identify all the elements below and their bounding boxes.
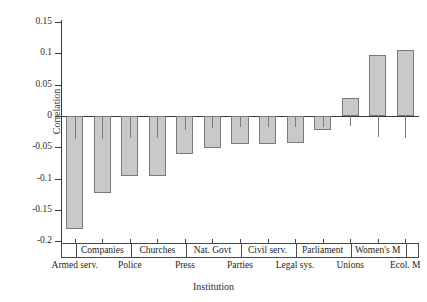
category-label: Parties: [215, 259, 266, 272]
error-whisker: [102, 117, 103, 139]
y-tick: [55, 22, 61, 23]
category-label: Civil serv.: [242, 244, 293, 257]
y-tick-label: 0: [0, 111, 52, 120]
y-axis-title: Correlation: [51, 52, 62, 172]
error-whisker: [240, 117, 241, 127]
error-whisker: [378, 116, 379, 137]
x-axis-title: Institution: [0, 281, 427, 292]
category-label: Unions: [325, 259, 376, 272]
category-label: Nat. Govt: [187, 244, 238, 257]
error-whisker: [405, 116, 406, 138]
chart-figure: 0.150.10.050-0.05-0.1-0.15-0.2 Correlati…: [0, 0, 427, 302]
category-label: Companies: [77, 244, 128, 257]
category-label: Parliament: [297, 244, 348, 257]
error-whisker: [75, 117, 76, 139]
error-whisker: [268, 117, 269, 127]
bar: [369, 55, 386, 116]
y-tick-label: 0.05: [0, 80, 52, 89]
y-tick-label: -0.05: [0, 142, 52, 151]
error-whisker: [185, 117, 186, 130]
category-separator: [406, 244, 407, 257]
error-whisker: [130, 117, 131, 138]
error-whisker: [323, 117, 324, 127]
y-tick: [55, 179, 61, 180]
category-label: Press: [160, 259, 211, 272]
chart-title: [0, 0, 427, 1]
category-label: Armed serv.: [49, 259, 100, 272]
error-whisker: [157, 117, 158, 138]
y-tick-label: 0.1: [0, 48, 52, 57]
y-tick: [55, 210, 61, 211]
error-whisker: [295, 117, 296, 127]
category-label: Churches: [132, 244, 183, 257]
category-label: Legal sys.: [270, 259, 321, 272]
y-tick-label: -0.2: [0, 236, 52, 245]
error-whisker: [350, 116, 351, 126]
category-label: Ecol. M: [380, 259, 427, 272]
y-tick-label: -0.1: [0, 174, 52, 183]
y-tick-label: -0.15: [0, 205, 52, 214]
error-whisker: [212, 117, 213, 128]
category-label: Women's M: [352, 244, 403, 257]
bar: [342, 98, 359, 116]
y-tick-label: 0.15: [0, 17, 52, 26]
category-label: Police: [105, 259, 156, 272]
bar: [397, 50, 414, 116]
